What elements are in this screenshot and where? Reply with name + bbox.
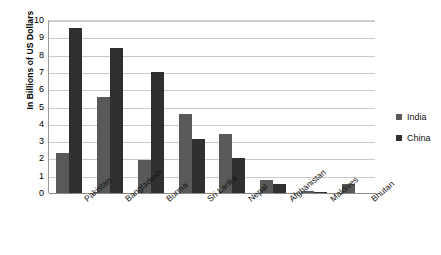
bar-group (49, 21, 90, 193)
legend-label: China (407, 133, 431, 143)
bar-group (90, 21, 131, 193)
y-axis-tick-label: 3 (18, 136, 44, 146)
x-axis-tick-label: Pakistan (82, 196, 88, 204)
y-axis-tick-label: 0 (18, 188, 44, 198)
x-axis-tick-label: Afghanistan (287, 196, 293, 204)
bar-india-pakistan (56, 153, 69, 193)
bar-china-sri-lanka (192, 139, 205, 193)
bar-chart: In Billions of US Dollars 109876543210 P… (0, 0, 441, 255)
bar-group (212, 21, 253, 193)
bar-group (253, 21, 294, 193)
bar-group (131, 21, 172, 193)
x-axis-tick-label: Bangladesh (123, 196, 129, 204)
x-axis-tick-label: Burma (164, 196, 170, 204)
bar-group (334, 21, 375, 193)
legend-swatch-icon (396, 114, 402, 120)
y-axis-tick-label: 10 (18, 15, 44, 25)
bar-china-maldives (314, 192, 327, 193)
chart-legend: IndiaChina (396, 112, 431, 154)
bar-groups (49, 21, 375, 193)
y-axis-tick-label: 2 (18, 153, 44, 163)
bar-group (294, 21, 335, 193)
x-axis-tick-label: Maldives (328, 196, 334, 204)
y-axis-tick-label: 5 (18, 102, 44, 112)
y-axis-tick-label: 9 (18, 32, 44, 42)
plot-area (48, 20, 375, 193)
bar-china-pakistan (69, 28, 82, 193)
bar-group (171, 21, 212, 193)
x-axis-tick-label: Nepal (246, 196, 252, 204)
legend-item-china[interactable]: China (396, 133, 431, 143)
x-axis-tick-labels: PakistanBangladeshBurmaSri LankaNepalAfg… (48, 196, 375, 254)
legend-swatch-icon (396, 135, 402, 141)
legend-label: India (407, 112, 427, 122)
x-axis-tick-label: Sri Lanka (205, 196, 211, 204)
bar-china-afghanistan (273, 184, 286, 193)
y-axis-tick-labels: 109876543210 (14, 20, 44, 193)
y-axis-tick-label: 6 (18, 84, 44, 94)
y-axis-tick-label: 1 (18, 171, 44, 181)
x-axis-tick-label: Bhutan (369, 196, 375, 204)
y-axis-tick-label: 4 (18, 119, 44, 129)
y-axis-tick-label: 8 (18, 50, 44, 60)
legend-item-india[interactable]: India (396, 112, 431, 122)
bar-china-bangladesh (110, 48, 123, 193)
y-axis-tick-label: 7 (18, 67, 44, 77)
